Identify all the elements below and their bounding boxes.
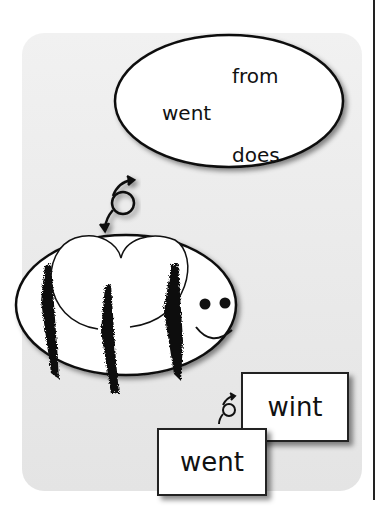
word-card-went[interactable]: went	[157, 428, 267, 496]
bee-eye-left	[200, 299, 211, 310]
bubble-word-does: does	[232, 143, 280, 167]
bubble-word-went: went	[162, 101, 211, 125]
cycle-arrow-icon	[100, 176, 134, 231]
bee-body	[16, 235, 236, 393]
cycle-arrow-icon-small	[219, 393, 235, 424]
thought-bubble	[115, 35, 343, 167]
bee-eye-right	[220, 298, 231, 309]
bubble-word-from: from	[232, 64, 279, 88]
